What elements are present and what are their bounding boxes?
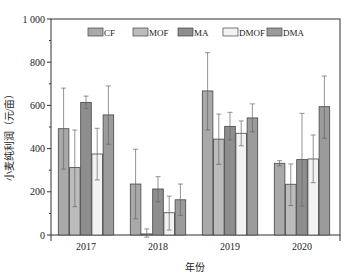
y-tick-label: 0 — [40, 230, 45, 241]
legend-swatch-ma — [178, 28, 193, 36]
bar-cf-2020 — [274, 163, 285, 235]
legend-swatch-dmof — [223, 28, 238, 36]
bar-chart: 02004006008001 000 2017201820192020 CFMO… — [0, 0, 350, 278]
legend-swatch-cf — [88, 28, 103, 36]
legend-label-mof: MOF — [149, 28, 169, 38]
legend-swatch-dma — [267, 28, 282, 36]
x-tick-label: 2020 — [292, 241, 312, 252]
bar-dma-2019 — [247, 118, 258, 235]
y-axis: 02004006008001 000 — [23, 14, 52, 241]
y-tick-label: 200 — [30, 186, 45, 197]
legend-label-dmof: DMOF — [239, 28, 265, 38]
legend-label-cf: CF — [104, 28, 115, 38]
y-axis-title: 小麦纯利润（元/亩） — [3, 89, 15, 182]
legend-label-dma: DMA — [283, 28, 305, 38]
bar-ma-2017 — [81, 102, 92, 235]
legend-swatch-mof — [133, 28, 148, 36]
legend-label-ma: MA — [194, 28, 209, 38]
y-tick-label: 1 000 — [23, 14, 46, 25]
legend: CFMOFMADMOFDMA — [88, 28, 305, 38]
x-tick-label: 2019 — [220, 241, 240, 252]
y-tick-label: 800 — [30, 57, 45, 68]
x-tick-label: 2017 — [76, 241, 96, 252]
y-tick-label: 400 — [30, 143, 45, 154]
x-axis-title: 年份 — [185, 261, 205, 273]
x-tick-label: 2018 — [148, 241, 168, 252]
bar-series — [58, 53, 329, 237]
y-tick-label: 600 — [30, 100, 45, 111]
bar-ma-2019 — [225, 126, 236, 235]
bar-dmof-2019 — [236, 133, 247, 235]
x-axis: 2017201820192020 — [51, 235, 340, 252]
